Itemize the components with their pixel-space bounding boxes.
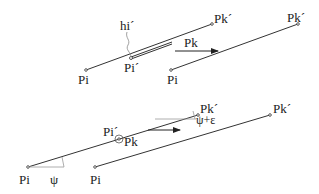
bottom-pk-label: Pk <box>124 135 138 148</box>
bottom-left-pi-label: Pi <box>19 173 30 186</box>
psi-label: ψ <box>50 173 58 186</box>
top-pk-label: Pk <box>184 36 198 49</box>
diagram-svg <box>0 0 319 194</box>
bottom-right-pi-label: Pi <box>90 173 101 186</box>
bottom-pi-prime-label: Pi´ <box>103 125 118 138</box>
top-right-pk-prime-label: Pk´ <box>287 11 305 24</box>
point-pk-prime <box>211 23 214 26</box>
height-leader <box>127 32 131 57</box>
bottom-right-pk-prime-label: Pk´ <box>273 102 291 115</box>
top-left-pi-prime-label: Pi´ <box>124 61 139 74</box>
top-hi-prime-label: hi´ <box>120 19 134 32</box>
bottom-right-segment <box>94 114 272 169</box>
diagram-canvas: Pi Pi´ hi´ Pk´ Pk Pi Pk´ Pi ψ Pi´ Pk Pk´… <box>0 0 319 194</box>
top-right-pi-label: Pi <box>167 73 178 86</box>
top-left-pi-label: Pi <box>78 73 89 86</box>
bottom-left-segment <box>27 111 200 168</box>
point-pi <box>85 69 88 72</box>
psi-eps-label: ψ+ε <box>196 114 215 126</box>
top-left-pk-prime-label: Pk´ <box>214 12 232 25</box>
